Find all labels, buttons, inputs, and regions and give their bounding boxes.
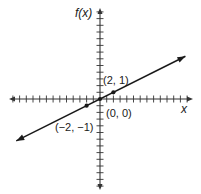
data-point <box>111 90 115 94</box>
x-axis-right-arrow-icon <box>187 97 193 102</box>
y-axis-up-arrow-icon <box>98 8 103 14</box>
point-label-neg2-neg1: (−2, −1) <box>55 122 94 133</box>
y-axis-down-arrow-icon <box>98 184 103 190</box>
x-axis-left-arrow-icon <box>9 97 15 102</box>
line-arrow-lower-left-icon <box>16 135 24 141</box>
point-label-0-0: (0, 0) <box>106 108 132 119</box>
x-axis-label: x <box>181 103 187 115</box>
line-arrow-upper-right-icon <box>177 56 185 62</box>
data-point <box>98 97 102 101</box>
coordinate-plane <box>0 0 201 194</box>
data-point <box>85 104 89 108</box>
y-axis-label: f(x) <box>75 7 92 19</box>
point-label-2-1: (2, 1) <box>103 75 129 86</box>
